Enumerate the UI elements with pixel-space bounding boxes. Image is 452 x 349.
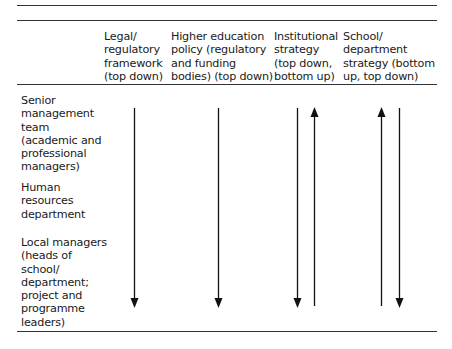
down-arrow-icon [294,108,302,308]
down-arrow-icon [131,108,139,308]
down-arrow-icon [396,108,404,308]
up-arrow-icon [378,107,386,306]
flow-arrows [0,0,452,349]
up-arrow-icon [311,107,319,306]
down-arrow-icon [215,108,223,308]
